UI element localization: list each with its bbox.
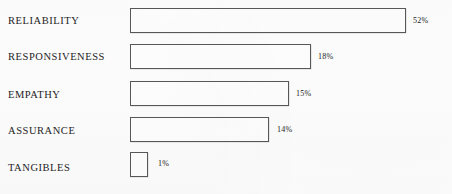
value-label-empathy: 15% — [296, 90, 312, 98]
bar-tangibles — [130, 152, 148, 177]
bar-empathy — [130, 81, 289, 106]
bar-reliability — [130, 8, 406, 33]
value-label-reliability: 52% — [413, 17, 429, 25]
bar-responsiveness — [130, 44, 311, 69]
category-label-tangibles: TANGIBLES — [8, 163, 70, 174]
category-label-responsiveness: RESPONSIVENESS — [8, 52, 105, 63]
bar-chart: RELIABILITY 52% RESPONSIVENESS 18% EMPAT… — [0, 0, 452, 194]
value-label-tangibles: 1% — [158, 160, 169, 168]
category-label-assurance: ASSURANCE — [8, 126, 75, 137]
category-label-reliability: RELIABILITY — [8, 16, 79, 27]
bar-assurance — [130, 117, 269, 142]
value-label-responsiveness: 18% — [318, 53, 334, 61]
category-label-empathy: EMPATHY — [8, 90, 60, 101]
value-label-assurance: 14% — [277, 126, 293, 134]
